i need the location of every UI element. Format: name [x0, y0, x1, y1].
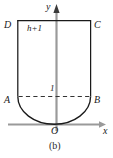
y-axis-arrowhead	[53, 4, 59, 13]
vertex-label-d: D	[4, 20, 11, 30]
height-measure-label: h+1	[27, 24, 42, 33]
figure-caption: (b)	[49, 141, 61, 151]
y-axis	[53, 4, 59, 131]
figure-container: D C A B h+1 1 y x O (b)	[0, 0, 113, 158]
y-axis-label: y	[46, 2, 50, 12]
vertex-label-a: A	[4, 95, 10, 105]
vertex-label-b: B	[94, 95, 100, 105]
arc-semicircle-AOB	[18, 97, 91, 125]
x-axis-label: x	[103, 126, 107, 136]
vertex-label-c: C	[94, 20, 101, 30]
radius-measure-label: 1	[50, 84, 55, 93]
origin-label: O	[51, 126, 58, 136]
region-outline	[18, 20, 92, 124]
